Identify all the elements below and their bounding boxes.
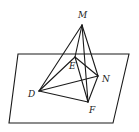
geometry-figure: M E N D F [0,0,139,132]
edge-nf [88,76,98,102]
vertex-label-e: E [68,61,76,71]
edge-df [39,91,88,102]
diagram-canvas: M E N D F [0,0,139,132]
vertex-label-d: D [27,89,35,99]
vertex-label-n: N [101,74,111,84]
vertex-label-f: F [88,105,96,115]
vertex-label-m: M [77,10,88,20]
